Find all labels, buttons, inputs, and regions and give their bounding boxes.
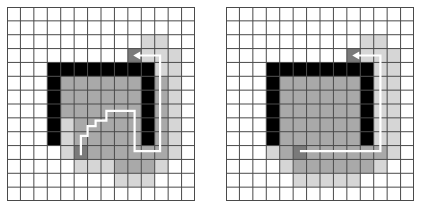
grid-cell-explored-medium xyxy=(293,118,307,132)
grid-cell-free xyxy=(226,21,240,35)
grid-cell-explored-light xyxy=(128,173,142,187)
grid-cell-free xyxy=(7,173,21,187)
grid-cell-free xyxy=(239,159,253,173)
grid-cell-free xyxy=(47,187,61,201)
grid-cell-free xyxy=(400,7,413,21)
grid-cell-free xyxy=(266,187,280,201)
left-grid xyxy=(7,7,195,201)
grid-cell-free xyxy=(182,76,195,90)
grid-cell-free xyxy=(101,173,115,187)
grid-cell-free xyxy=(293,35,307,49)
grid-cell-explored-medium xyxy=(306,146,320,160)
grid-cell-explored-medium xyxy=(360,159,374,173)
grid-cell-explored-medium xyxy=(306,104,320,118)
grid-cell-free xyxy=(252,173,266,187)
grid-cell-free xyxy=(252,159,266,173)
grid-cell-free xyxy=(346,35,360,49)
grid-cell-explored-light xyxy=(168,132,182,146)
grid-cell-free xyxy=(7,35,21,49)
grid-cell-explored-medium xyxy=(155,90,169,104)
grid-cell-explored-medium xyxy=(114,118,128,132)
grid-cell-free xyxy=(114,35,128,49)
grid-cell-free xyxy=(114,49,128,63)
grid-cell-explored-medium xyxy=(114,146,128,160)
grid-cell-free xyxy=(47,35,61,49)
grid-cell-explored-light xyxy=(373,35,387,49)
grid-cell-free xyxy=(373,173,387,187)
grid-cell-free xyxy=(400,35,413,49)
grid-cell-free xyxy=(239,35,253,49)
grid-cell-explored-medium xyxy=(74,90,88,104)
grid-cell-explored-light xyxy=(387,90,401,104)
grid-cell-free xyxy=(101,187,115,201)
grid-cell-explored-light xyxy=(387,132,401,146)
grid-cell-free xyxy=(226,35,240,49)
grid-cell-free xyxy=(182,104,195,118)
grid-cell-explored-medium xyxy=(306,90,320,104)
grid-cell-free xyxy=(387,7,401,21)
grid-cell-explored-light xyxy=(346,173,360,187)
grid-cell-free xyxy=(252,187,266,201)
grid-cell-free xyxy=(182,173,195,187)
grid-cell-wall xyxy=(266,62,280,76)
grid-cell-free xyxy=(34,49,48,63)
grid-cell-wall xyxy=(141,76,155,90)
grid-cell-explored-medium xyxy=(155,76,169,90)
grid-cell-free xyxy=(47,146,61,160)
grid-cell-free xyxy=(226,118,240,132)
grid-cell-free xyxy=(346,7,360,21)
grid-cell-wall xyxy=(47,118,61,132)
grid-cell-explored-light xyxy=(168,62,182,76)
grid-cell-free xyxy=(306,187,320,201)
grid-cell-explored-medium xyxy=(114,90,128,104)
grid-cell-explored-medium xyxy=(155,104,169,118)
grid-cell-free xyxy=(34,76,48,90)
grid-cell-free xyxy=(279,49,293,63)
grid-cell-explored-medium xyxy=(74,76,88,90)
grid-cell-free xyxy=(34,173,48,187)
grid-cell-explored-light xyxy=(320,173,334,187)
grid-cell-free xyxy=(293,187,307,201)
grid-cell-free xyxy=(155,7,169,21)
grid-cell-explored-light xyxy=(101,159,115,173)
grid-cell-free xyxy=(34,146,48,160)
grid-cell-free xyxy=(182,159,195,173)
grid-cell-free xyxy=(7,21,21,35)
grid-cell-explored-light xyxy=(114,173,128,187)
grid-cell-free xyxy=(266,173,280,187)
grid-cell-free xyxy=(182,49,195,63)
grid-cell-free xyxy=(239,173,253,187)
grid-cell-free xyxy=(74,7,88,21)
grid-cell-free xyxy=(333,49,347,63)
grid-cell-free xyxy=(34,90,48,104)
grid-cell-free xyxy=(400,132,413,146)
grid-cell-wall xyxy=(74,62,88,76)
grid-cell-free xyxy=(168,173,182,187)
grid-cell-start-goal xyxy=(293,146,307,160)
grid-cell-wall xyxy=(293,62,307,76)
grid-cell-free xyxy=(360,173,374,187)
grid-cell-free xyxy=(333,187,347,201)
grid-cell-wall xyxy=(266,76,280,90)
right-grid xyxy=(226,7,414,201)
grid-cell-explored-medium xyxy=(293,76,307,90)
grid-cell-free xyxy=(279,173,293,187)
grid-cell-explored-medium xyxy=(74,104,88,118)
grid-cell-free xyxy=(74,187,88,201)
grid-cell-explored-medium xyxy=(74,118,88,132)
grid-cell-free xyxy=(74,49,88,63)
grid-cell-free xyxy=(333,7,347,21)
grid-cell-free xyxy=(387,35,401,49)
grid-cell-wall xyxy=(320,62,334,76)
grid-cell-wall xyxy=(47,62,61,76)
grid-cell-explored-light xyxy=(266,146,280,160)
grid-cell-explored-light xyxy=(387,104,401,118)
grid-cell-explored-medium xyxy=(320,76,334,90)
grid-cell-explored-medium xyxy=(346,118,360,132)
grid-cell-free xyxy=(101,7,115,21)
grid-cell-wall xyxy=(114,62,128,76)
grid-cell-free xyxy=(168,159,182,173)
grid-cell-free xyxy=(182,21,195,35)
grid-cell-explored-light xyxy=(168,90,182,104)
grid-cell-explored-medium xyxy=(101,76,115,90)
